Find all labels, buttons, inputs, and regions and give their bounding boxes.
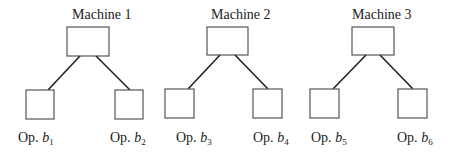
op-b1-label: Op. b1 bbox=[18, 130, 54, 147]
edge-m1-b1 bbox=[48, 56, 80, 90]
op-b2-node bbox=[115, 90, 143, 119]
edge-m3-b6 bbox=[380, 55, 413, 89]
op-b5-label: Op. b5 bbox=[311, 130, 347, 147]
machine-1-label: Machine 1 bbox=[72, 7, 131, 22]
machine-3-label: Machine 3 bbox=[352, 7, 411, 22]
machine-1-tree: Machine 1 Op. b1 Op. b2 bbox=[18, 7, 146, 147]
machine-2-node bbox=[207, 27, 248, 55]
machine-2-tree: Machine 2 Op. b3 Op. b4 bbox=[165, 7, 289, 147]
op-b3-node bbox=[165, 89, 194, 118]
machine-operation-diagram: Machine 1 Op. b1 Op. b2 Machine 2 Op. b3… bbox=[0, 0, 453, 152]
op-b6-label: Op. b6 bbox=[397, 130, 433, 147]
op-b3-label: Op. b3 bbox=[176, 130, 212, 147]
edge-m2-b3 bbox=[188, 55, 220, 89]
edge-m1-b2 bbox=[96, 56, 130, 90]
op-b6-node bbox=[398, 89, 427, 118]
op-b4-node bbox=[253, 89, 282, 118]
op-b2-label: Op. b2 bbox=[110, 130, 146, 147]
machine-1-node bbox=[67, 27, 109, 56]
machine-3-node bbox=[352, 27, 394, 55]
op-b4-label: Op. b4 bbox=[253, 130, 289, 147]
op-b1-node bbox=[26, 90, 54, 119]
op-b5-node bbox=[310, 89, 339, 118]
edge-m3-b5 bbox=[333, 55, 366, 89]
machine-3-tree: Machine 3 Op. b5 Op. b6 bbox=[310, 7, 433, 147]
machine-2-label: Machine 2 bbox=[211, 7, 270, 22]
edge-m2-b4 bbox=[235, 55, 268, 89]
